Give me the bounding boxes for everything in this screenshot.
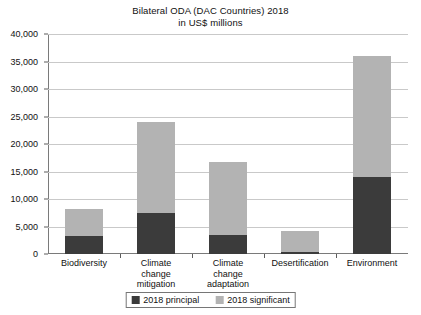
bar-group [264,34,336,254]
y-axis-tick-label: 35,000 [10,57,38,67]
legend-label: 2018 principal [143,295,199,305]
y-axis-tick-label: 10,000 [10,194,38,204]
plot-area [48,34,408,254]
x-axis-category-label-line: change [189,269,267,280]
bar-segment-principal[interactable] [137,213,175,254]
bar-group [336,34,408,254]
bar-stack[interactable] [209,162,247,254]
chart-title-block: Bilateral ODA (DAC Countries) 2018 in US… [0,5,421,28]
bar-segment-significant[interactable] [65,209,103,237]
x-axis-category-label-line: Environment [333,258,411,269]
x-axis-category-label-line: change [117,269,195,280]
bar-segment-principal[interactable] [353,177,391,254]
bar-group [120,34,192,254]
bar-segment-significant[interactable] [281,231,319,252]
bar-segment-significant[interactable] [353,56,391,177]
y-axis-tick-label: 30,000 [10,84,38,94]
x-axis-category-label-line: mitigation [117,279,195,290]
bar-group [192,34,264,254]
x-axis-category-label-line: adaptation [189,279,267,290]
bar-stack[interactable] [65,209,103,254]
x-axis-category-label: Desertification [261,258,339,269]
y-axis-tick-label: 40,000 [10,29,38,39]
bar-group [48,34,120,254]
bar-chart: Bilateral ODA (DAC Countries) 2018 in US… [0,0,421,315]
x-axis-category-label: Climatechangemitigation [117,258,195,290]
chart-subtitle: in US$ millions [0,17,421,29]
bar-segment-significant[interactable] [209,162,247,235]
y-axis-tick-label: 0 [33,249,38,259]
legend-item[interactable]: 2018 principal [131,295,199,305]
bar-stack[interactable] [353,56,391,254]
legend-label: 2018 significant [227,295,290,305]
light-square-swatch [215,296,223,304]
bars-layer [48,34,408,254]
y-axis-tick-label: 15,000 [10,167,38,177]
chart-legend: 2018 principal2018 significant [125,292,296,308]
x-axis-category-label-line: Climate [117,258,195,269]
bar-segment-principal[interactable] [209,235,247,254]
x-axis-category-label: Biodiversity [45,258,123,269]
bar-stack[interactable] [281,231,319,254]
y-axis: 05,00010,00015,00020,00025,00030,00035,0… [0,34,44,254]
bar-stack[interactable] [137,122,175,254]
dark-square-swatch [131,296,139,304]
x-axis-category-label: Climatechangeadaptation [189,258,267,290]
y-axis-tick-label: 20,000 [10,139,38,149]
x-axis-category-label-line: Desertification [261,258,339,269]
chart-title: Bilateral ODA (DAC Countries) 2018 [0,5,421,17]
y-axis-tick-label: 25,000 [10,112,38,122]
x-axis-category-label: Environment [333,258,411,269]
bar-segment-significant[interactable] [137,122,175,213]
y-axis-tick-label: 5,000 [15,222,38,232]
x-axis-category-label-line: Biodiversity [45,258,123,269]
bar-segment-principal[interactable] [65,236,103,254]
legend-item[interactable]: 2018 significant [215,295,290,305]
x-axis-category-label-line: Climate [189,258,267,269]
x-axis-labels: BiodiversityClimatechangemitigationClima… [48,258,408,294]
